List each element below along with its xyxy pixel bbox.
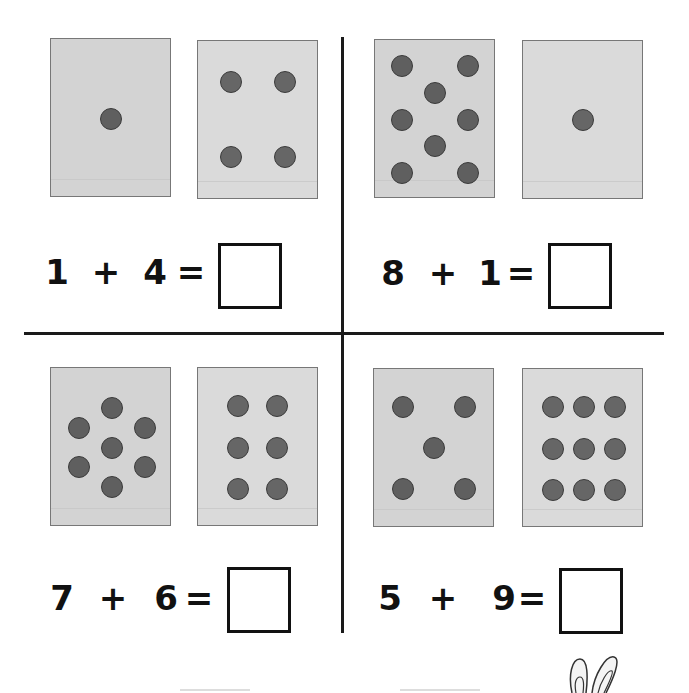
counting-dot [424, 135, 446, 157]
counting-dot [227, 437, 249, 459]
addend-2: 9 [492, 578, 516, 618]
counting-dot [454, 478, 476, 500]
counting-dot [101, 437, 123, 459]
counting-dot [68, 417, 90, 439]
scan-artifact [198, 508, 317, 509]
equals-sign: = [507, 253, 536, 293]
counting-dot [391, 162, 413, 184]
counting-dot [68, 456, 90, 478]
counting-dot [220, 71, 242, 93]
counting-dot [573, 396, 595, 418]
counting-dot [542, 479, 564, 501]
counting-dot [227, 478, 249, 500]
counting-dot [457, 162, 479, 184]
scan-artifact [523, 181, 642, 182]
counting-dot [604, 396, 626, 418]
counting-dot [100, 108, 122, 130]
counting-dot [424, 82, 446, 104]
counting-dot [266, 437, 288, 459]
dot-card-addend-1 [374, 39, 495, 198]
counting-dot [457, 55, 479, 77]
counting-dot [604, 479, 626, 501]
counting-dot [542, 396, 564, 418]
counting-dot [573, 479, 595, 501]
scan-artifact [51, 179, 170, 180]
counting-dot [604, 438, 626, 460]
counting-dot [220, 146, 242, 168]
dot-card-addend-2 [522, 368, 643, 527]
addend-1: 8 [381, 253, 405, 293]
scan-artifact [374, 509, 493, 510]
counting-dot [227, 395, 249, 417]
plus-sign: + [429, 253, 458, 293]
vertical-divider [341, 37, 344, 633]
counting-dot [572, 109, 594, 131]
print-smudge [180, 689, 250, 691]
bunny-ears-icon [566, 653, 636, 693]
scan-artifact [51, 508, 170, 509]
counting-dot [454, 396, 476, 418]
dot-card-addend-2 [197, 367, 318, 526]
counting-dot [266, 395, 288, 417]
addend-2: 1 [478, 253, 502, 293]
print-smudge [400, 689, 480, 691]
equals-sign: = [518, 578, 547, 618]
plus-sign: + [429, 578, 458, 618]
counting-dot [392, 478, 414, 500]
answer-box[interactable] [548, 243, 612, 309]
counting-dot [134, 417, 156, 439]
counting-dot [542, 438, 564, 460]
dot-card-addend-1 [50, 38, 171, 197]
scan-artifact [523, 509, 642, 510]
counting-dot [134, 456, 156, 478]
counting-dot [392, 396, 414, 418]
counting-dot [101, 397, 123, 419]
answer-box[interactable] [559, 568, 623, 634]
counting-dot [423, 437, 445, 459]
horizontal-divider [24, 332, 664, 335]
counting-dot [266, 478, 288, 500]
scan-artifact [198, 181, 317, 182]
counting-dot [274, 71, 296, 93]
addend-1: 5 [378, 578, 402, 618]
counting-dot [391, 55, 413, 77]
counting-dot [457, 109, 479, 131]
dot-card-addend-1 [373, 368, 494, 527]
counting-dot [391, 109, 413, 131]
counting-dot [274, 146, 296, 168]
dot-card-addend-1 [50, 367, 171, 526]
dot-card-addend-2 [522, 40, 643, 199]
dot-card-addend-2 [197, 40, 318, 199]
counting-dot [101, 476, 123, 498]
counting-dot [573, 438, 595, 460]
